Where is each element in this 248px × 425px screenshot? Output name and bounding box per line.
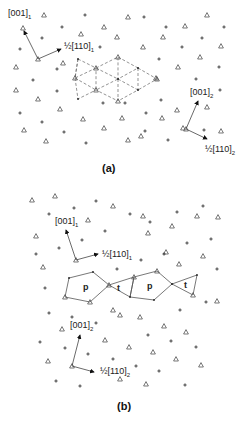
plus-markers-a <box>18 13 225 144</box>
vector-pair-1-a: [001]1 ½[110]1 <box>8 8 95 61</box>
solid-polygon-chain: p t p t <box>63 269 198 304</box>
panel-a: [001]1 ½[110]1 [001]2 ½[110]2 (a) <box>8 8 236 174</box>
arrow-001-1-b <box>66 230 76 260</box>
arrow-half110-1-b <box>76 254 98 260</box>
arrow-001-2-a <box>186 101 198 129</box>
crystal-lattice-diagram: [001]1 ½[110]1 [001]2 ½[110]2 (a) <box>0 0 248 425</box>
polygon-label-p-2: p <box>147 281 153 291</box>
polygon-label-t-1: t <box>117 283 120 293</box>
caption-b: (b) <box>117 400 131 412</box>
panel-b: p t p t [001]1 ½[110]1 [001]2 ½[110]2 (b… <box>30 194 221 412</box>
arrow-001-1-a <box>24 31 38 59</box>
caption-a: (a) <box>102 162 116 174</box>
label-001-2-a: [001]2 <box>190 87 214 99</box>
label-001-1-b: [001]1 <box>55 216 79 228</box>
triangle-markers-a <box>14 13 224 143</box>
vector-pair-2-b: [001]2 ½[110]2 <box>70 320 131 378</box>
polygon-label-p-1: p <box>83 282 89 292</box>
vector-pair-2-a: [001]2 ½[110]2 <box>184 87 236 156</box>
label-001-2-b: [001]2 <box>70 320 94 332</box>
label-half110-1-b: ½[110]1 <box>102 249 133 261</box>
arrow-half110-2-b <box>72 366 94 372</box>
arrow-half110-1-a <box>38 49 61 59</box>
arrow-001-2-b <box>72 335 80 366</box>
vector-pair-1-b: [001]1 ½[110]1 <box>55 216 133 262</box>
dashed-triangular-net <box>73 55 160 103</box>
label-half110-2-b: ½[110]2 <box>100 366 131 378</box>
label-half110-2-a: ½[110]2 <box>205 144 236 156</box>
polygon-label-t-2: t <box>184 280 187 290</box>
label-001-1-a: [001]1 <box>8 8 32 20</box>
label-half110-1-a: ½[110]1 <box>64 41 95 53</box>
